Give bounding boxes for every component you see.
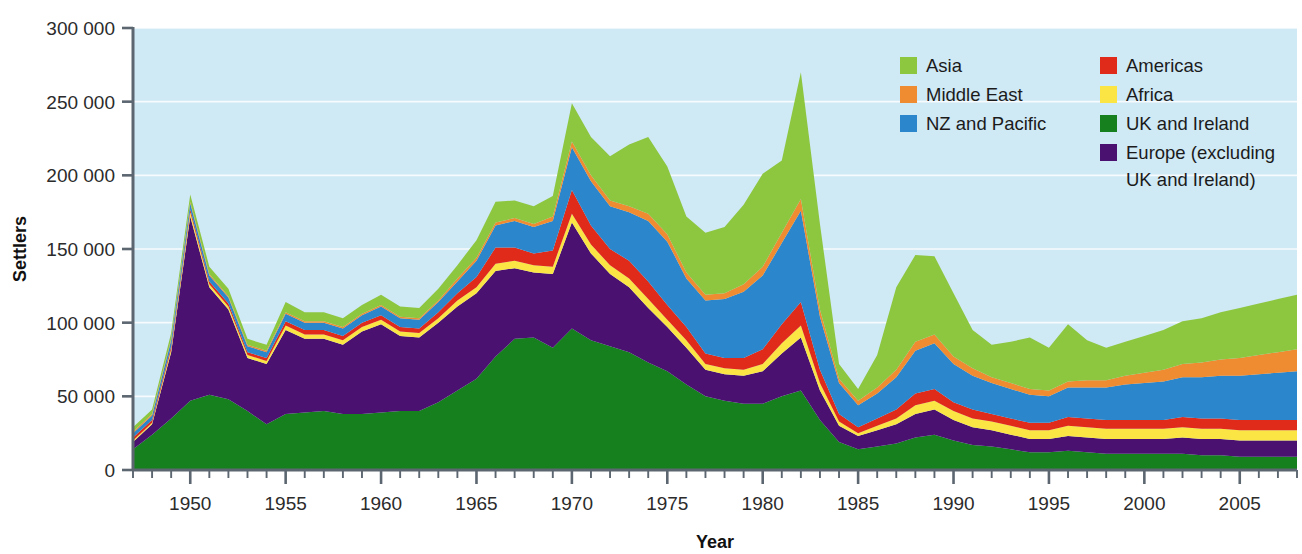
- x-tick-label: 1975: [646, 493, 688, 514]
- y-axis-title: Settlers: [10, 216, 30, 282]
- legend-label-uk-ireland: UK and Ireland: [1126, 113, 1249, 134]
- x-tick-label: 1965: [455, 493, 497, 514]
- x-tick-label: 1995: [1028, 493, 1070, 514]
- legend-label-americas: Americas: [1126, 55, 1203, 76]
- x-tick-label: 2005: [1219, 493, 1261, 514]
- legend-label-nz-pacific: NZ and Pacific: [926, 113, 1046, 134]
- y-tick-label: 250 000: [46, 92, 115, 113]
- x-tick-label: 1970: [551, 493, 593, 514]
- legend-swatch-asia: [900, 57, 917, 74]
- y-tick-label: 0: [104, 460, 115, 481]
- chart-svg: 050 000100 000150 000200 000250 000300 0…: [0, 0, 1302, 554]
- x-tick-label: 1980: [742, 493, 784, 514]
- legend-swatch-africa: [1100, 86, 1117, 103]
- y-tick-label: 150 000: [46, 239, 115, 260]
- legend-swatch-americas: [1100, 57, 1117, 74]
- x-axis-title: Year: [696, 532, 734, 552]
- legend-swatch-nz-pacific: [900, 115, 917, 132]
- x-tick-label: 1985: [837, 493, 879, 514]
- legend-item-asia[interactable]: Asia: [900, 55, 963, 76]
- legend-label-europe-line2: UK and Ireland): [1126, 169, 1256, 190]
- legend-swatch-middle-east: [900, 86, 917, 103]
- x-tick-label: 2000: [1123, 493, 1165, 514]
- x-axis-ticks: 1950195519601965197019751980198519901995…: [133, 470, 1297, 514]
- legend-swatch-europe: [1100, 144, 1117, 161]
- legend-label-asia: Asia: [926, 55, 963, 76]
- x-tick-label: 1960: [360, 493, 402, 514]
- legend-label-europe: Europe (excluding: [1126, 142, 1275, 163]
- x-tick-label: 1950: [169, 493, 211, 514]
- x-tick-label: 1990: [932, 493, 974, 514]
- y-tick-label: 50 000: [57, 386, 115, 407]
- y-tick-label: 200 000: [46, 165, 115, 186]
- y-axis-ticks: 050 000100 000150 000200 000250 000300 0…: [46, 18, 133, 481]
- x-tick-label: 1955: [265, 493, 307, 514]
- settlers-area-chart: 050 000100 000150 000200 000250 000300 0…: [0, 0, 1302, 554]
- legend-item-africa[interactable]: Africa: [1100, 84, 1174, 105]
- y-tick-label: 100 000: [46, 313, 115, 334]
- legend-label-africa: Africa: [1126, 84, 1174, 105]
- legend-label-middle-east: Middle East: [926, 84, 1023, 105]
- legend-swatch-uk-ireland: [1100, 115, 1117, 132]
- y-tick-label: 300 000: [46, 18, 115, 39]
- legend-item-americas[interactable]: Americas: [1100, 55, 1203, 76]
